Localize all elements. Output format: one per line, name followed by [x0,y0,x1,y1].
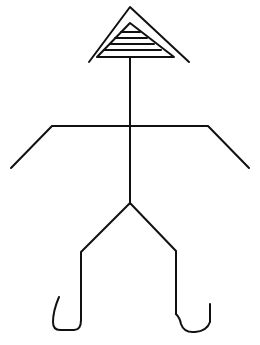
left-leg [81,203,130,320]
stick-figure-drawing [0,0,260,345]
drawing-canvas [0,0,260,345]
roof-outer-icon [89,7,189,62]
roof-inner-icon [97,23,174,57]
roof-head [89,7,189,62]
right-foot-hook [176,304,210,332]
right-leg [130,203,176,314]
left-foot-hook [53,297,81,330]
